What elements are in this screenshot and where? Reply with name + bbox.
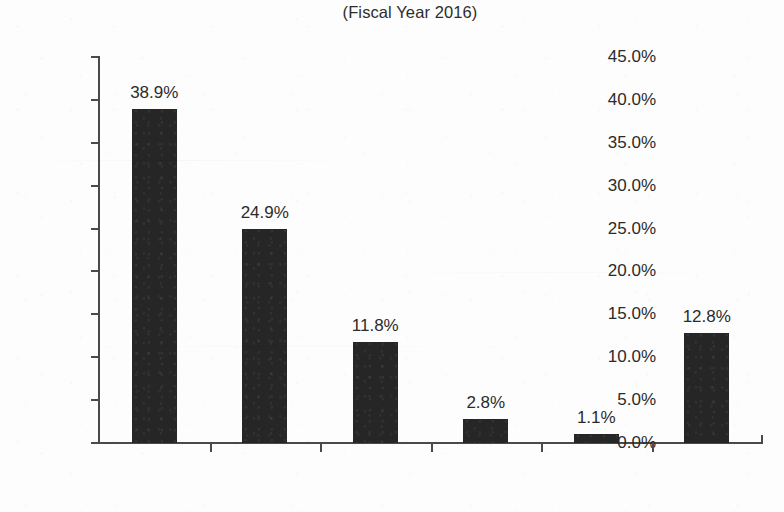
y-axis-tick: [91, 56, 100, 58]
bar-value-label: 1.1%: [577, 408, 616, 428]
plot-area: 45.0%40.0%35.0%30.0%25.0%20.0%15.0%10.0%…: [99, 57, 762, 443]
x-axis-line: [98, 442, 761, 444]
chart-page: (Fiscal Year 2016) 45.0%40.0%35.0%30.0%2…: [0, 0, 784, 512]
x-axis-tick: [210, 443, 212, 452]
x-axis-tick: [652, 443, 654, 452]
bar: [132, 109, 177, 443]
y-axis-tick-label: 30.0%: [608, 176, 656, 196]
y-axis-tick-label: 25.0%: [608, 219, 656, 239]
chart-title: (Fiscal Year 2016): [0, 3, 784, 22]
y-axis-tick-label: 35.0%: [608, 133, 656, 153]
bar: [353, 342, 398, 443]
x-axis-right-tick: [761, 435, 763, 444]
y-axis-tick-label: 15.0%: [608, 304, 656, 324]
bar: [684, 333, 729, 443]
x-axis-tick: [320, 443, 322, 452]
bar-value-label: 2.8%: [466, 393, 505, 413]
y-axis-tick: [91, 313, 100, 315]
y-axis-tick: [91, 356, 100, 358]
y-axis-tick-label: 0.0%: [617, 433, 656, 453]
bar-value-label: 12.8%: [683, 307, 731, 327]
y-axis-tick-label: 10.0%: [608, 347, 656, 367]
y-axis-tick: [91, 270, 100, 272]
y-axis-tick: [91, 142, 100, 144]
y-axis-tick: [91, 399, 100, 401]
bar-value-label: 24.9%: [241, 203, 289, 223]
bar: [463, 419, 508, 443]
y-axis-tick-label: 45.0%: [608, 47, 656, 67]
bar: [242, 229, 287, 443]
y-axis-tick-label: 5.0%: [617, 390, 656, 410]
y-axis-tick-label: 20.0%: [608, 261, 656, 281]
bar-value-label: 38.9%: [130, 83, 178, 103]
y-axis-tick: [91, 442, 100, 444]
bar: [574, 434, 619, 443]
y-axis-tick: [91, 99, 100, 101]
x-axis-tick: [431, 443, 433, 452]
y-axis-tick: [91, 228, 100, 230]
y-axis-line: [98, 57, 100, 443]
bar-value-label: 11.8%: [352, 316, 399, 336]
y-axis-tick-label: 40.0%: [608, 90, 656, 110]
y-axis-tick: [91, 185, 100, 187]
x-axis-tick: [541, 443, 543, 452]
